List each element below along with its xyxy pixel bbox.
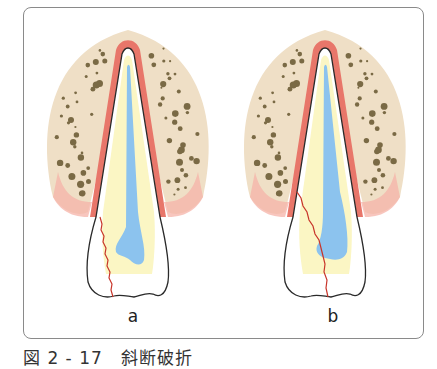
bone-dot (195, 132, 199, 136)
bone-dot (162, 59, 165, 62)
bone-dot (298, 52, 303, 57)
bone-dot (173, 193, 175, 195)
bone-dot (283, 63, 288, 68)
bone-dot (264, 121, 267, 124)
bone-dot (81, 152, 84, 155)
bone-dot (162, 48, 164, 50)
bone-dot (175, 177, 181, 183)
bone-dot (357, 87, 359, 89)
bone-dot (60, 114, 63, 117)
bone-dot (149, 53, 155, 59)
bone-dot (193, 158, 199, 164)
bone-dot (164, 117, 167, 120)
bone-dot (262, 163, 267, 168)
bone-dot (180, 168, 184, 172)
bone-dot (86, 179, 91, 184)
bone-dot (373, 159, 380, 166)
bone-dot (357, 81, 363, 87)
bone-dot (86, 63, 91, 68)
bone-dot (81, 170, 87, 176)
bone-dot (370, 193, 372, 195)
bone-dot (364, 138, 369, 143)
panel-label-b: b (313, 306, 353, 326)
bone-dot (369, 120, 374, 125)
bone-dot (172, 120, 177, 125)
bone-dot (358, 96, 362, 100)
bone-dot (172, 110, 179, 117)
bone-dot (79, 190, 85, 196)
bone-dot (287, 113, 290, 116)
bone-dot (62, 97, 65, 100)
bone-dot (377, 168, 381, 172)
bone-dot (267, 139, 273, 145)
bone-dot (369, 110, 376, 117)
bone-dot (151, 62, 156, 67)
bone-dot (174, 73, 177, 76)
bone-dot (359, 48, 361, 50)
bone-dot (276, 190, 282, 196)
figure-caption: 図 2 - 17 斜断破折 (23, 344, 193, 369)
bone-dot (102, 59, 107, 64)
bone-dot (67, 121, 70, 124)
tooth-diagram-a (28, 12, 228, 302)
bone-dot (76, 101, 79, 104)
bone-dot (161, 96, 165, 100)
bone-dot (184, 186, 187, 189)
bone-dot (374, 188, 377, 191)
bone-dot (68, 173, 75, 180)
bone-dot (346, 53, 352, 59)
bone-dot (74, 132, 79, 137)
bone-dot (282, 75, 285, 78)
bone-dot (73, 145, 76, 148)
bone-dot (288, 87, 293, 92)
bone-dot (386, 156, 391, 161)
bone-dot (184, 103, 191, 110)
bone-dot (184, 173, 189, 178)
bone-dot (359, 59, 362, 62)
bone-dot (177, 188, 180, 191)
bone-dot (381, 173, 386, 178)
bone-dot (383, 111, 386, 114)
tooth-diagram-b (225, 12, 425, 302)
bone-dot (296, 49, 299, 52)
bone-dot (374, 149, 380, 155)
bone-dot (186, 111, 189, 114)
bone-dot (348, 62, 353, 67)
bone-dot (160, 87, 162, 89)
bone-dot (355, 102, 359, 106)
bone-dot (167, 138, 172, 143)
bone-dot (91, 87, 96, 92)
bone-dot (275, 154, 281, 160)
bone-dot (375, 126, 380, 131)
bone-dot (178, 126, 183, 131)
bone-dot (177, 149, 183, 155)
bone-dot (169, 60, 171, 62)
bone-dot (93, 59, 99, 65)
bone-dot (283, 166, 287, 170)
bone-dot (271, 126, 273, 128)
bone-dot (374, 90, 378, 94)
bone-dot (290, 59, 296, 65)
bone-dot (265, 173, 272, 180)
bone-dot (96, 72, 99, 75)
panel-label-a: a (113, 306, 153, 326)
bone-dot (363, 72, 366, 75)
bone-dot (158, 102, 162, 106)
bone-dot (189, 156, 194, 161)
bone-dot (257, 114, 260, 117)
bone-dot (278, 170, 284, 176)
bone-dot (177, 90, 181, 94)
bone-dot (259, 97, 262, 100)
bone-dot (381, 186, 384, 189)
bone-dot (101, 52, 106, 57)
bone-dot (273, 101, 276, 104)
bone-dot (252, 135, 256, 139)
bone-dot (86, 166, 90, 170)
bone-dot (90, 113, 93, 116)
bone-dot (271, 132, 276, 137)
bone-dot (381, 103, 388, 110)
bone-dot (66, 105, 70, 109)
bone-dot (299, 59, 304, 64)
bone-dot (55, 135, 59, 139)
bone-dot (77, 181, 84, 188)
